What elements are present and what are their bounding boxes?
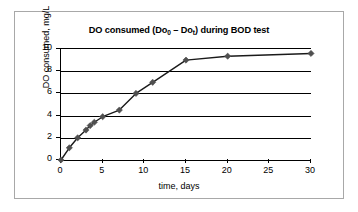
y-tick-label: 0 xyxy=(15,154,52,163)
y-tick-label: 4 xyxy=(15,110,52,119)
series-line xyxy=(61,53,311,160)
y-tick-label: 8 xyxy=(15,65,52,74)
data-point-marker xyxy=(308,50,314,56)
y-tick-label: 6 xyxy=(15,87,52,96)
chart-title-suffix: ) during BOD test xyxy=(195,25,269,35)
x-tick-label: 20 xyxy=(215,166,239,175)
chart-title-sub-time: t xyxy=(193,29,195,36)
chart-title-middle: – Do xyxy=(171,25,193,35)
y-tick-label: 10 xyxy=(15,43,52,52)
x-tick-label: 10 xyxy=(131,166,155,175)
x-tick-label: 25 xyxy=(256,166,280,175)
chart-title: DO consumed (Do0 – Dot) during BOD test xyxy=(15,25,343,35)
x-tick-label: 5 xyxy=(90,166,114,175)
y-tick-label: 2 xyxy=(15,132,52,141)
data-point-marker xyxy=(225,53,231,59)
chart-title-prefix: DO consumed (Do xyxy=(89,25,168,35)
x-tick-label: 0 xyxy=(48,166,72,175)
data-series-line xyxy=(61,49,311,160)
plot-area xyxy=(60,48,311,161)
chart-title-sub-initial: 0 xyxy=(167,29,171,36)
x-tick-label: 30 xyxy=(298,166,322,175)
x-tick-label: 15 xyxy=(173,166,197,175)
chart-frame: DO consumed (Do0 – Dot) during BOD test … xyxy=(14,11,344,199)
x-axis-title: time, days xyxy=(15,181,343,191)
